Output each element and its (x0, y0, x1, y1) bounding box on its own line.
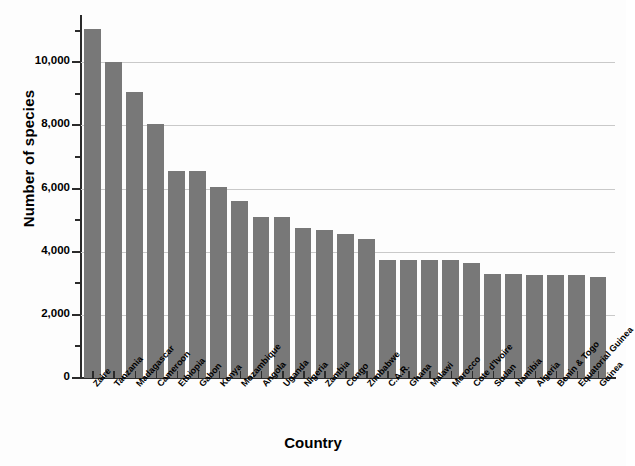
bar[interactable] (337, 234, 354, 378)
y-tick-minor (75, 93, 81, 95)
bar[interactable] (421, 260, 438, 378)
bar[interactable] (189, 171, 206, 378)
bar[interactable] (400, 260, 417, 378)
x-tick (472, 371, 474, 378)
y-tick-major (72, 188, 81, 190)
x-tick (387, 371, 389, 378)
x-tick (514, 371, 516, 378)
bar[interactable] (295, 228, 312, 378)
x-tick (451, 371, 453, 378)
bar[interactable] (210, 187, 227, 378)
x-tick (408, 371, 410, 378)
y-tick-minor (75, 219, 81, 221)
bar[interactable] (147, 124, 164, 378)
y-tick-major (72, 124, 81, 126)
x-tick (156, 371, 158, 378)
bar[interactable] (442, 260, 459, 378)
x-tick (198, 371, 200, 378)
x-tick (177, 371, 179, 378)
x-tick (366, 371, 368, 378)
x-tick (324, 371, 326, 378)
y-axis-tick-labels: 02,0004,0006,0008,00010,000 (0, 0, 70, 466)
x-tick (493, 371, 495, 378)
y-tick-major (72, 314, 81, 316)
y-tick-minor (75, 30, 81, 32)
y-tick-label: 10,000 (4, 54, 70, 66)
x-tick (303, 371, 305, 378)
y-tick-major (72, 61, 81, 63)
x-tick (598, 371, 600, 378)
y-tick-label: 6,000 (4, 181, 70, 193)
plot-area (81, 15, 615, 378)
x-axis-title: Country (0, 434, 626, 451)
y-tick-minor (75, 156, 81, 158)
bar[interactable] (84, 29, 101, 378)
y-tick-label: 2,000 (4, 307, 70, 319)
x-tick (135, 371, 137, 378)
bar[interactable] (358, 239, 375, 378)
bar[interactable] (126, 92, 143, 378)
bar[interactable] (316, 230, 333, 378)
x-tick (219, 371, 221, 378)
y-tick-minor (75, 345, 81, 347)
x-tick (577, 371, 579, 378)
x-tick (240, 371, 242, 378)
x-tick (345, 371, 347, 378)
gridline (81, 62, 615, 63)
x-tick (261, 371, 263, 378)
x-tick (282, 371, 284, 378)
y-tick-label: 0 (4, 370, 70, 382)
y-tick-label: 8,000 (4, 117, 70, 129)
x-tick (556, 371, 558, 378)
y-tick-major (72, 377, 81, 379)
y-tick-major (72, 251, 81, 253)
x-tick (535, 371, 537, 378)
y-tick-label: 4,000 (4, 244, 70, 256)
bar[interactable] (105, 62, 122, 378)
y-tick-minor (75, 282, 81, 284)
bar[interactable] (231, 201, 248, 378)
